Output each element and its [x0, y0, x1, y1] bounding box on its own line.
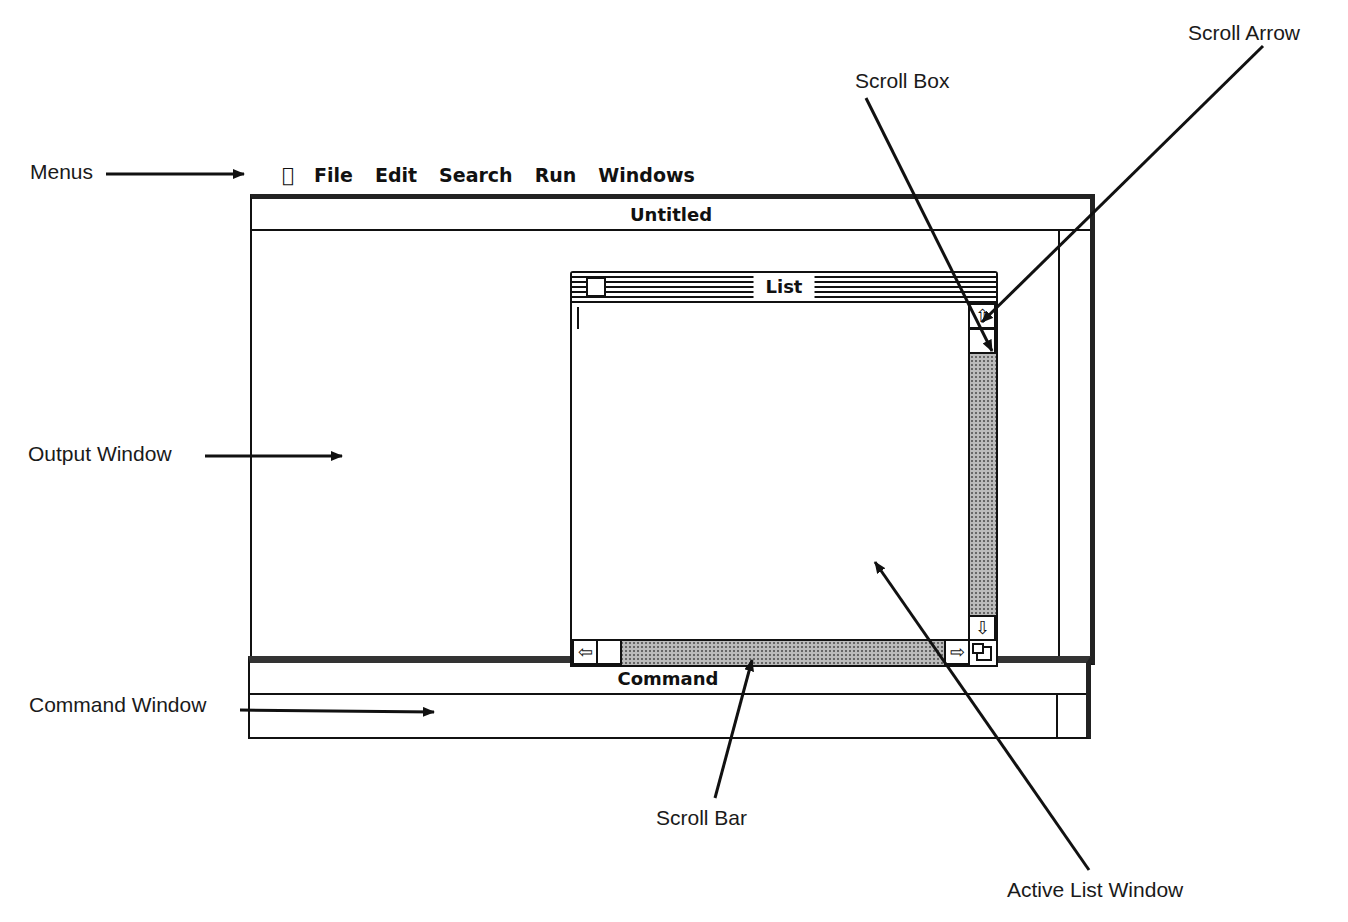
command-window[interactable]: Command — [248, 656, 1091, 739]
scroll-right-arrow-icon[interactable]: ⇨ — [944, 639, 970, 665]
callout-scroll-bar: Scroll Bar — [656, 806, 747, 830]
output-window-titlebar[interactable]: Untitled — [252, 199, 1090, 231]
callout-scroll-box: Scroll Box — [855, 69, 950, 93]
apple-menu-icon[interactable]:  — [282, 163, 294, 187]
command-window-titlebar[interactable]: Command — [250, 663, 1086, 695]
horizontal-scroll-box[interactable] — [596, 639, 622, 665]
callout-active-list-window: Active List Window — [1007, 878, 1183, 902]
menu-file[interactable]: File — [314, 164, 353, 186]
list-window[interactable]: List ⇧ ⇩ ⇦ ⇨ — [570, 271, 998, 667]
scroll-up-arrow-icon[interactable]: ⇧ — [968, 303, 996, 329]
list-window-title: List — [754, 275, 815, 299]
menu-search[interactable]: Search — [439, 164, 513, 186]
command-window-scrollbar-edge — [1056, 695, 1058, 737]
output-window-title: Untitled — [630, 204, 712, 225]
callout-menus: Menus — [30, 160, 93, 184]
callout-command-window: Command Window — [29, 693, 206, 717]
command-window-title: Command — [618, 668, 719, 689]
size-box-icon[interactable] — [968, 639, 996, 665]
horizontal-scroll-bar[interactable] — [572, 639, 968, 665]
vertical-scroll-box[interactable] — [968, 328, 996, 354]
close-box-icon[interactable] — [586, 277, 606, 297]
callout-scroll-arrow: Scroll Arrow — [1188, 21, 1300, 45]
callout-output-window: Output Window — [28, 442, 172, 466]
list-window-titlebar[interactable]: List — [572, 273, 996, 303]
menu-run[interactable]: Run — [535, 164, 577, 186]
output-window-scrollbar-edge — [1058, 231, 1060, 663]
menu-edit[interactable]: Edit — [375, 164, 417, 186]
scroll-left-arrow-icon[interactable]: ⇦ — [572, 639, 598, 665]
text-cursor — [577, 307, 579, 329]
menu-bar:  File Edit Search Run Windows — [282, 160, 717, 190]
scroll-down-arrow-icon[interactable]: ⇩ — [968, 615, 996, 641]
menu-windows[interactable]: Windows — [598, 164, 695, 186]
